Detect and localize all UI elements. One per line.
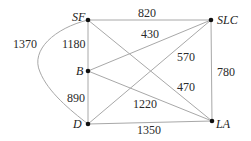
weight-label-sf-slc: 820 (138, 6, 156, 20)
weight-label-d-slc: 570 (177, 50, 195, 64)
node-d (86, 122, 91, 127)
weighted-graph-diagram: SF SLC B D LA 820 1180 890 1370 430 570 … (0, 0, 251, 141)
node-label-b: B (76, 64, 84, 78)
weight-label-b-slc: 430 (141, 27, 159, 41)
weight-label-slc-la: 780 (217, 65, 235, 79)
weight-label-d-la: 1350 (137, 123, 161, 137)
node-label-sf: SF (72, 10, 86, 24)
weight-label-b-d: 890 (67, 91, 85, 105)
weight-label-sf-d: 1370 (13, 37, 37, 51)
node-label-la: LA (215, 117, 231, 131)
node-la (210, 119, 215, 124)
node-sf (86, 18, 91, 23)
node-b (86, 69, 91, 74)
weight-label-sf-la: 470 (177, 80, 195, 94)
node-label-d: D (72, 117, 82, 131)
node-label-slc: SLC (217, 13, 239, 27)
weight-label-b-la: 1220 (133, 97, 157, 111)
node-slc (209, 18, 214, 23)
edge-slc-la (211, 20, 212, 121)
weight-label-sf-b: 1180 (62, 37, 86, 51)
edge-b-la (88, 71, 212, 121)
